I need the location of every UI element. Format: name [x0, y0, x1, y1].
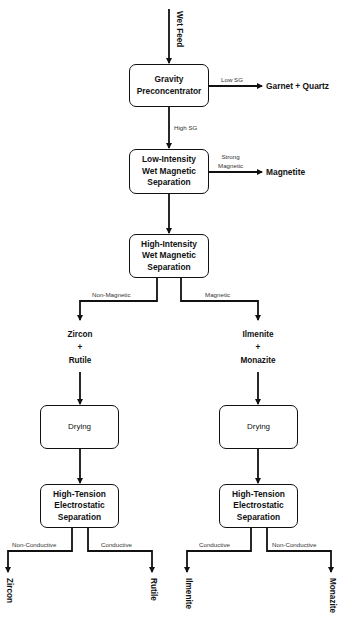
- product-monazite: Monazite: [327, 578, 337, 613]
- product-rutile: Rutile: [148, 578, 158, 601]
- hte-left-box: High-Tension Electrostatic Separation: [40, 484, 119, 528]
- product-ilmenite: Ilmenite: [183, 578, 193, 609]
- high-intensity-wms-box: High-Intensity Wet Magnetic Separation: [129, 234, 209, 278]
- drying-right-box: Drying: [219, 405, 298, 449]
- edge-label-right-conductive: Conductive: [199, 541, 230, 549]
- input-wet-feed: Wet Feed: [174, 11, 184, 47]
- edge-label-low-sg: Low SG: [221, 76, 243, 84]
- drying-left-box: Drying: [40, 405, 119, 449]
- edge-label-non-magnetic: Non-Magnetic: [92, 291, 131, 299]
- edge-label-high-sg: High SG: [174, 124, 197, 132]
- edge-label-right-non-conductive: Non-Conductive: [272, 541, 316, 549]
- hte-right-box: High-Tension Electrostatic Separation: [219, 484, 298, 528]
- intermediate-ilmenite-monazite: Ilmenite + Monazite: [228, 328, 288, 367]
- intermediate-zircon-rutile: Zircon + Rutile: [50, 328, 110, 367]
- gravity-preconcentrator-box: Gravity Preconcentrator: [129, 64, 209, 107]
- edge-label-left-non-conductive: Non-Conductive: [12, 541, 56, 549]
- product-zircon: Zircon: [4, 578, 14, 603]
- edge-label-strong-magnetic: Strong Magnetic: [218, 152, 243, 170]
- edge-label-magnetic: Magnetic: [205, 291, 230, 299]
- product-magnetite: Magnetite: [266, 167, 305, 177]
- product-garnet-quartz: Garnet + Quartz: [266, 81, 329, 91]
- low-intensity-wms-box: Low-Intensity Wet Magnetic Separation: [129, 149, 209, 194]
- edge-label-left-conductive: Conductive: [101, 541, 132, 549]
